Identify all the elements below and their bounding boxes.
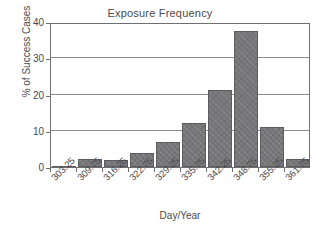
y-axis-tick-label: 40 — [14, 18, 44, 28]
chart-figure: Exposure Frequency % of Success Cases Da… — [0, 0, 320, 229]
y-axis-tick-label: 0 — [14, 163, 44, 173]
gridline — [51, 94, 309, 95]
bar-342.25 — [208, 90, 232, 167]
y-axis-tick — [46, 23, 50, 24]
y-axis-tick — [46, 132, 50, 133]
gridline — [51, 57, 309, 58]
y-axis-tick — [46, 59, 50, 60]
chart-title: Exposure Frequency — [0, 7, 320, 19]
x-axis-title: Day/Year — [50, 210, 310, 221]
plot-area — [50, 23, 310, 168]
bar-348.75 — [234, 31, 258, 167]
y-axis-tick — [46, 96, 50, 97]
y-axis-tick-label: 20 — [14, 91, 44, 101]
y-axis-tick-label: 10 — [14, 127, 44, 137]
y-axis-tick-label: 30 — [14, 54, 44, 64]
